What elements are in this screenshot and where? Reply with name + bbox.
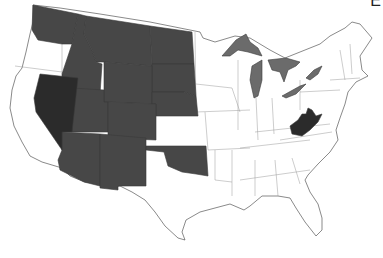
corner-label: E bbox=[370, 0, 381, 9]
state-ut bbox=[72, 88, 108, 132]
state-sd bbox=[152, 64, 196, 96]
state-nd bbox=[150, 26, 194, 64]
state-az bbox=[58, 132, 100, 186]
state-nm bbox=[100, 134, 146, 190]
state-wy bbox=[104, 62, 152, 104]
us-choropleth-map bbox=[0, 0, 383, 258]
state-co bbox=[108, 102, 156, 140]
state-ne bbox=[152, 92, 198, 116]
